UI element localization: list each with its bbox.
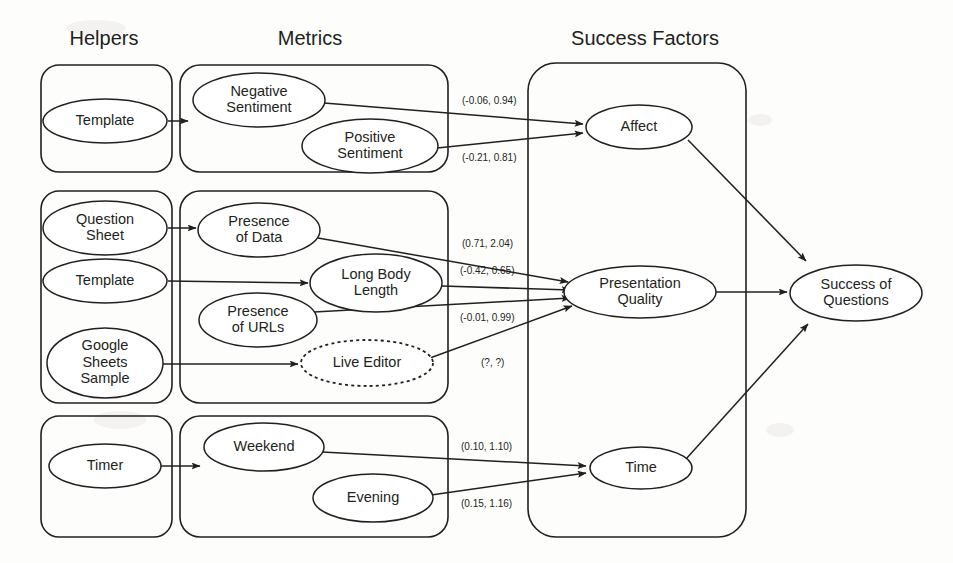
node-negative-sentiment[interactable]: NegativeSentiment — [193, 73, 325, 127]
column-headers: HelpersMetricsSuccess Factors — [70, 27, 719, 49]
column-header-success-factors: Success Factors — [571, 27, 719, 49]
node-label-long-body-length: Long Body — [341, 266, 411, 282]
node-success-of-questions[interactable]: Success ofQuestions — [790, 265, 922, 321]
node-label-success-of-questions: Success of — [821, 276, 893, 292]
node-label-question-sheet: Sheet — [86, 227, 124, 243]
coefficient-label-coef-presurls-quality: (-0.01, 0.99) — [460, 312, 514, 323]
coefficient-label-coef-positive-affect: (-0.21, 0.81) — [462, 152, 516, 163]
node-label-presence-of-data: Presence — [228, 213, 289, 229]
node-label-negative-sentiment: Negative — [230, 83, 287, 99]
edge-template-2-to-long-body-length — [168, 281, 308, 283]
node-label-google-sheets: Sample — [80, 370, 129, 386]
coefficient-label-coef-presdata-quality: (0.71, 2.04) — [462, 238, 513, 249]
node-label-google-sheets: Sheets — [82, 354, 127, 370]
edge-affect-to-success-of-questions — [688, 140, 806, 261]
node-time[interactable]: Time — [590, 447, 692, 489]
column-header-helpers: Helpers — [70, 27, 139, 49]
node-label-template-1: Template — [76, 112, 135, 128]
coefficient-label-coef-weekend-time: (0.10, 1.10) — [461, 441, 512, 452]
path-diagram-canvas: HelpersMetricsSuccess Factors TemplateQu… — [0, 0, 953, 563]
node-affect[interactable]: Affect — [586, 105, 692, 149]
node-label-weekend: Weekend — [234, 438, 295, 454]
node-timer[interactable]: Timer — [49, 444, 161, 488]
node-label-positive-sentiment: Positive — [345, 129, 396, 145]
node-long-body-length[interactable]: Long BodyLength — [310, 254, 442, 312]
node-label-long-body-length: Length — [354, 282, 398, 298]
node-label-negative-sentiment: Sentiment — [226, 99, 291, 115]
edge-weekend-to-time — [322, 452, 586, 466]
node-label-affect: Affect — [621, 118, 658, 134]
coefficient-label-coef-liveeditor-quality: (?, ?) — [481, 357, 504, 368]
node-label-presentation-quality: Quality — [617, 291, 663, 307]
edge-time-to-success-of-questions — [686, 324, 808, 459]
node-positive-sentiment[interactable]: PositiveSentiment — [302, 119, 438, 173]
node-label-question-sheet: Question — [76, 211, 134, 227]
node-presence-of-data[interactable]: Presenceof Data — [198, 203, 320, 257]
node-google-sheets[interactable]: GoogleSheetsSample — [47, 328, 163, 398]
edge-positive-sentiment-to-affect — [437, 133, 583, 148]
node-label-presence-of-urls: Presence — [227, 303, 288, 319]
node-label-template-2: Template — [76, 272, 135, 288]
node-presence-of-urls[interactable]: Presenceof URLs — [199, 293, 317, 347]
node-label-success-of-questions: Questions — [823, 292, 888, 308]
coefficient-label-coef-evening-time: (0.15, 1.16) — [461, 498, 512, 509]
node-presentation-quality[interactable]: PresentationQuality — [564, 266, 716, 318]
node-weekend[interactable]: Weekend — [204, 423, 324, 471]
node-template-2[interactable]: Template — [43, 259, 167, 303]
node-label-positive-sentiment: Sentiment — [337, 145, 402, 161]
node-label-presence-of-data: of Data — [236, 229, 284, 245]
node-label-presentation-quality: Presentation — [599, 275, 680, 291]
edge-long-body-length-to-presentation-quality — [442, 286, 570, 290]
node-label-time: Time — [625, 459, 657, 475]
node-label-evening: Evening — [347, 489, 399, 505]
nodes-layer: TemplateQuestionSheetTemplateGoogleSheet… — [43, 73, 922, 522]
node-evening[interactable]: Evening — [313, 474, 433, 522]
coefficient-label-coef-longbody-quality: (-0.42, 0.65) — [460, 265, 514, 276]
node-live-editor[interactable]: Live Editor — [301, 340, 433, 386]
node-question-sheet[interactable]: QuestionSheet — [43, 201, 167, 255]
coefficient-label-coef-negative-affect: (-0.06, 0.94) — [462, 95, 516, 106]
column-header-metrics: Metrics — [278, 27, 342, 49]
node-label-google-sheets: Google — [82, 337, 129, 353]
diagram-root: HelpersMetricsSuccess Factors TemplateQu… — [0, 0, 953, 563]
node-template-1[interactable]: Template — [43, 99, 167, 143]
node-label-live-editor: Live Editor — [333, 354, 402, 370]
node-label-timer: Timer — [87, 457, 124, 473]
edge-evening-to-time — [431, 473, 586, 495]
node-label-presence-of-urls: of URLs — [232, 319, 284, 335]
